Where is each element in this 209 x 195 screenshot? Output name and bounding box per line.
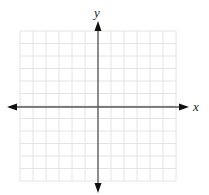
y-axis-up-arrow-icon bbox=[95, 21, 102, 31]
x-axis-label: x bbox=[192, 99, 199, 114]
coordinate-plane: x y bbox=[0, 0, 209, 195]
y-axis-label: y bbox=[92, 5, 100, 20]
x-axis-left-arrow-icon bbox=[7, 104, 17, 111]
y-axis-down-arrow-icon bbox=[95, 183, 102, 193]
x-axis-right-arrow-icon bbox=[179, 104, 189, 111]
axes bbox=[7, 21, 189, 193]
